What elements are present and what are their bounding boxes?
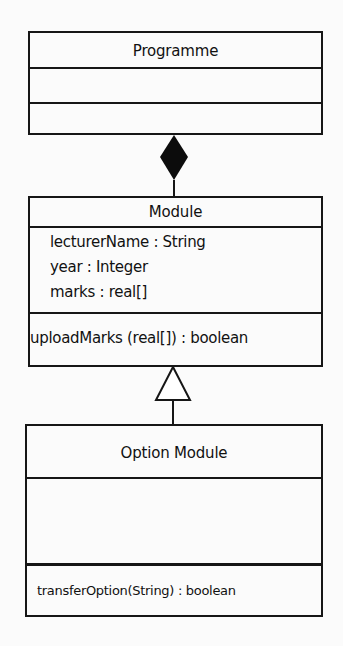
generalization-connector: [156, 367, 190, 425]
class-name: Programme: [30, 42, 321, 60]
attributes-compartment: [27, 479, 321, 563]
operation-transfer-option: transferOption(String) : boolean: [37, 583, 236, 598]
composition-connector: [160, 135, 188, 197]
class-name: Module: [30, 203, 321, 221]
class-option-module[interactable]: Option Module transferOption(String) : b…: [25, 424, 323, 617]
attribute-lecturer-name: lecturerName : String: [50, 233, 206, 251]
attribute-marks: marks : real[]: [50, 283, 147, 301]
operations-compartment: [30, 104, 321, 133]
operations-compartment: uploadMarks (real[]) : boolean: [30, 314, 321, 365]
class-name: Option Module: [27, 444, 321, 462]
attributes-compartment: lecturerName : String year : Integer mar…: [30, 228, 321, 312]
filled-diamond-icon: [160, 135, 188, 180]
class-module[interactable]: Module lecturerName : String year : Inte…: [28, 196, 323, 367]
attribute-year: year : Integer: [50, 258, 148, 276]
class-programme[interactable]: Programme: [28, 31, 323, 135]
attributes-compartment: [30, 69, 321, 102]
operation-upload-marks: uploadMarks (real[]) : boolean: [30, 329, 248, 347]
operations-compartment: transferOption(String) : boolean: [27, 566, 321, 615]
hollow-triangle-icon: [156, 367, 190, 400]
